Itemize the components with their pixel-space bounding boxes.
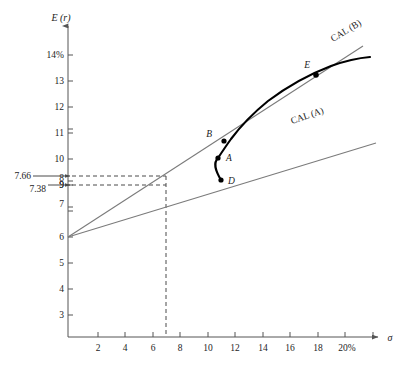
cal-a-annotation: CAL (A) [289,105,325,127]
data-point-e [313,72,319,78]
x-tick-label-6: 6 [151,343,156,353]
x-axis-ticks [98,332,373,337]
reference-label-738: 7.38 [29,184,46,194]
y-tick-label-14: 14% [47,50,65,60]
chart-canvas: E (r) σ 14% 13 12 11 10 9 8 [0,0,407,368]
x-tick-label-18: 18 [313,343,323,353]
x-tick-label-2: 2 [96,343,101,353]
x-tick-label-12: 12 [230,343,240,353]
y-tick-label-4: 4 [59,284,64,294]
x-tick-label-8: 8 [178,343,183,353]
capital-allocation-line-chart: E (r) σ 14% 13 12 11 10 9 8 [0,0,407,368]
x-tick-label-16: 16 [285,343,295,353]
data-point-label-e: E [303,60,310,70]
data-point-label-d: D [227,176,235,186]
y-tick-label-7: 7 [59,199,64,209]
data-point-d [218,177,223,182]
cal-a-line [68,143,376,237]
y-tick-label-11: 11 [55,128,64,138]
x-tick-label-4: 4 [123,343,128,353]
y-axis-title: E (r) [50,12,71,24]
y-tick-label-6: 6 [59,232,64,242]
y-tick-label-13: 13 [55,76,65,86]
reference-label-766: 7.66 [14,171,31,181]
x-tick-label-20: 20% [338,343,356,353]
y-tick-label-10: 10 [55,154,65,164]
y-tick-label-3: 3 [59,310,64,320]
cal-b-annotation: CAL (B) [329,18,364,45]
x-tick-label-14: 14 [258,343,268,353]
data-point-b [221,138,226,143]
reference-lines-group [33,176,166,334]
data-point-label-b: B [206,129,212,139]
x-axis-title: σ [388,332,394,343]
x-tick-label-10: 10 [203,343,213,353]
x-axis-tick-labels: 2 4 6 8 10 12 14 16 18 20% [96,343,356,353]
y-tick-label-12: 12 [55,102,65,112]
data-points-group [215,72,318,182]
y-tick-label-5: 5 [59,258,64,268]
data-point-a [215,155,220,160]
data-point-label-a: A [225,153,232,163]
